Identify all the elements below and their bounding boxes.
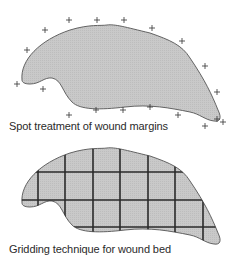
wound-shape <box>22 25 220 121</box>
spot-treatment-panel <box>14 17 226 129</box>
caption-spot-treatment: Spot treatment of wound margins <box>9 120 168 132</box>
caption-gridding: Gridding technique for wound bed <box>9 243 171 255</box>
wound-shape <box>22 148 220 244</box>
gridding-panel <box>10 140 230 250</box>
